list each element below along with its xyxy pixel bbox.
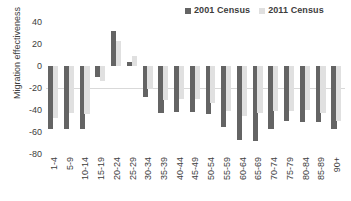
y-tick-label: -20: [18, 83, 42, 93]
bar-group: [203, 22, 219, 154]
x-tick-label: 50-54: [206, 157, 216, 180]
bar-2011-census-5-9[interactable]: [69, 66, 74, 113]
y-tick-label: 20: [18, 39, 42, 49]
x-tick-cell: 15-19: [93, 156, 109, 201]
bar-2011-census-45-49[interactable]: [195, 66, 200, 99]
x-tick-cell: 20-24: [109, 156, 125, 201]
x-tick-label: 35-39: [159, 157, 169, 180]
x-tick-label: 45-49: [190, 157, 200, 180]
x-tick-label: 70-74: [269, 157, 279, 180]
x-tick-cell: 50-54: [203, 156, 219, 201]
bar-2011-census-10-14[interactable]: [84, 66, 89, 114]
bar-2011-census-1-4[interactable]: [53, 66, 58, 118]
bar-2011-census-60-64[interactable]: [242, 66, 247, 116]
bar-group: [219, 22, 235, 154]
bar-group: [77, 22, 93, 154]
bar-2011-census-65-69[interactable]: [257, 66, 262, 113]
bar-group: [235, 22, 251, 154]
bar-group: [140, 22, 156, 154]
x-tick-cell: 10-14: [77, 156, 93, 201]
bar-group: [46, 22, 62, 154]
x-tick-cell: 40-44: [172, 156, 188, 201]
x-tick-label: 1-4: [49, 157, 59, 170]
x-tick-label: 15-19: [96, 157, 106, 180]
x-tick-cell: 45-49: [188, 156, 204, 201]
bar-group: [298, 22, 314, 154]
legend-entry-2011-census[interactable]: 2011 Census: [259, 6, 324, 15]
bar-group: [62, 22, 78, 154]
bar-group: [109, 22, 125, 154]
y-tick-label: -40: [18, 105, 42, 115]
bar-group: [172, 22, 188, 154]
migration-effectiveness-bar-chart: 2001 Census 2011 Census Migration effect…: [0, 0, 351, 201]
bar-group: [266, 22, 282, 154]
x-tick-cell: 1-4: [46, 156, 62, 201]
plot-area: 40200-20-40-60-80: [46, 22, 345, 154]
bar-group: [313, 22, 329, 154]
x-tick-cell: 85-89: [313, 156, 329, 201]
legend-label-2001-census: 2001 Census: [194, 6, 250, 15]
y-tick-label: -60: [18, 127, 42, 137]
y-tick-label: -80: [18, 149, 42, 159]
x-tick-label: 90+: [332, 157, 342, 172]
bar-2011-census-20-24[interactable]: [116, 41, 121, 66]
x-tick-cell: 35-39: [156, 156, 172, 201]
x-tick-label: 30-34: [143, 157, 153, 180]
x-tick-label: 80-84: [301, 157, 311, 180]
x-tick-cell: 30-34: [140, 156, 156, 201]
x-tick-label: 60-64: [238, 157, 248, 180]
x-tick-label: 20-24: [112, 157, 122, 180]
x-tick-cell: 65-69: [251, 156, 267, 201]
y-tick-label: 0: [18, 61, 42, 71]
bar-group: [188, 22, 204, 154]
bar-2011-census-50-54[interactable]: [210, 66, 215, 103]
x-tick-label: 10-14: [80, 157, 90, 180]
x-tick-label: 25-29: [128, 157, 138, 180]
bar-group: [329, 22, 345, 154]
bar-2011-census-30-34[interactable]: [147, 66, 152, 89]
x-tick-cell: 75-79: [282, 156, 298, 201]
bar-2011-census-70-74[interactable]: [273, 66, 278, 111]
x-tick-label: 40-44: [175, 157, 185, 180]
x-tick-label: 75-79: [285, 157, 295, 180]
bar-2011-census-35-39[interactable]: [163, 66, 168, 100]
bar-group: [156, 22, 172, 154]
legend-label-2011-census: 2011 Census: [268, 6, 324, 15]
x-tick-cell: 60-64: [235, 156, 251, 201]
bar-2011-census-75-79[interactable]: [289, 66, 294, 111]
bar-group: [125, 22, 141, 154]
bar-group: [93, 22, 109, 154]
y-tick-label: 40: [18, 17, 42, 27]
bar-2011-census-80-84[interactable]: [305, 66, 310, 110]
bar-group: [282, 22, 298, 154]
x-tick-cell: 55-59: [219, 156, 235, 201]
x-tick-label: 85-89: [316, 157, 326, 180]
bar-2011-census-90+[interactable]: [336, 66, 341, 121]
chart-legend: 2001 Census 2011 Census: [185, 6, 324, 15]
x-tick-cell: 5-9: [62, 156, 78, 201]
x-tick-cell: 90+: [329, 156, 345, 201]
bar-2011-census-25-29[interactable]: [132, 56, 137, 66]
x-tick-cell: 80-84: [298, 156, 314, 201]
x-tick-label: 65-69: [253, 157, 263, 180]
legend-swatch-2001-census: [185, 8, 191, 14]
x-tick-label: 5-9: [65, 157, 75, 170]
x-tick-label: 55-59: [222, 157, 232, 180]
bar-groups: [46, 22, 345, 154]
legend-entry-2001-census[interactable]: 2001 Census: [185, 6, 250, 15]
bar-2011-census-40-44[interactable]: [179, 66, 184, 99]
bar-2011-census-55-59[interactable]: [226, 66, 231, 111]
x-tick-cell: 70-74: [266, 156, 282, 201]
legend-swatch-2011-census: [259, 8, 265, 14]
bar-group: [251, 22, 267, 154]
bar-2011-census-85-89[interactable]: [320, 66, 325, 113]
x-axis-tick-labels: 1-45-910-1415-1920-2425-2930-3435-3940-4…: [46, 156, 345, 201]
x-tick-cell: 25-29: [125, 156, 141, 201]
bar-2011-census-15-19[interactable]: [100, 66, 105, 81]
